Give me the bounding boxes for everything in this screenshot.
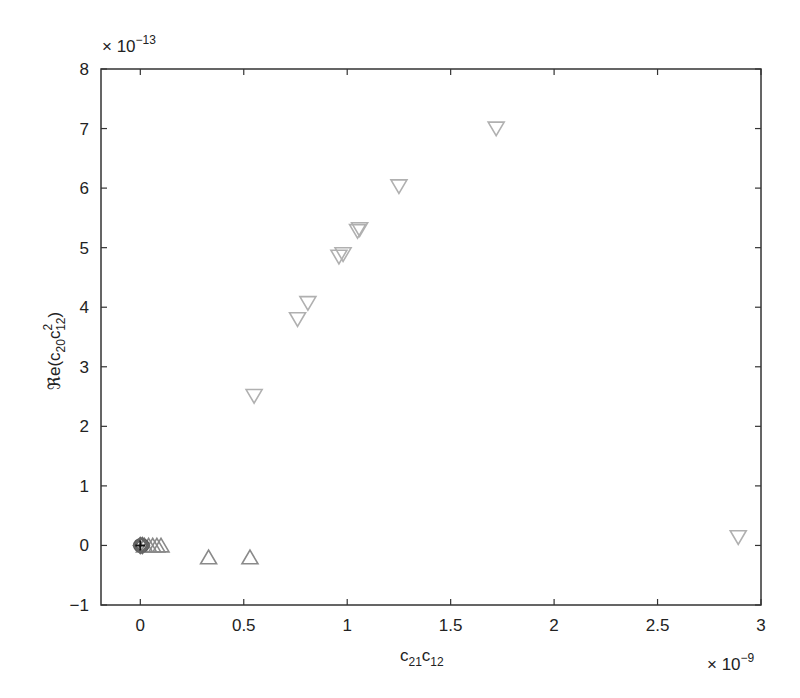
x-tick-label: 0 xyxy=(136,616,145,635)
triangle-up-marker xyxy=(201,550,217,564)
triangle-down-marker xyxy=(290,313,306,327)
y-tick-label: 8 xyxy=(80,60,89,79)
y-tick-label: 5 xyxy=(80,239,89,258)
data-markers xyxy=(133,122,746,564)
y-tick-label: 3 xyxy=(80,358,89,377)
triangle-down-marker xyxy=(331,250,347,264)
triangle-down-marker xyxy=(730,531,746,545)
x-axis-multiplier: × 10−9 xyxy=(707,651,755,674)
y-tick-label: 7 xyxy=(80,120,89,139)
triangle-down-marker xyxy=(391,180,407,194)
y-axis-ticks: −1012345678 xyxy=(70,60,761,615)
triangle-down-marker xyxy=(246,390,262,404)
x-tick-label: 1.5 xyxy=(439,616,463,635)
y-tick-label: −1 xyxy=(70,596,89,615)
triangle-up-marker xyxy=(242,550,258,564)
scatter-chart: 00.511.522.53 −1012345678 c21c12 × 10−9 … xyxy=(0,0,800,698)
triangle-down-marker xyxy=(488,122,504,136)
plot-frame xyxy=(101,69,761,605)
x-axis-label: c21c12 xyxy=(400,646,444,669)
x-tick-label: 0.5 xyxy=(232,616,256,635)
y-tick-label: 6 xyxy=(80,179,89,198)
x-axis-ticks: 00.511.522.53 xyxy=(136,69,766,635)
y-axis-label: ℜe(c20c212) xyxy=(41,312,68,390)
y-tick-label: 2 xyxy=(80,417,89,436)
y-tick-label: 1 xyxy=(80,477,89,496)
x-tick-label: 1 xyxy=(342,616,351,635)
y-axis-multiplier: × 10−13 xyxy=(102,33,156,56)
x-tick-label: 3 xyxy=(756,616,765,635)
y-tick-label: 4 xyxy=(80,298,89,317)
y-tick-label: 0 xyxy=(80,536,89,555)
x-tick-label: 2 xyxy=(549,616,558,635)
triangle-down-marker xyxy=(300,297,316,311)
x-tick-label: 2.5 xyxy=(646,616,670,635)
